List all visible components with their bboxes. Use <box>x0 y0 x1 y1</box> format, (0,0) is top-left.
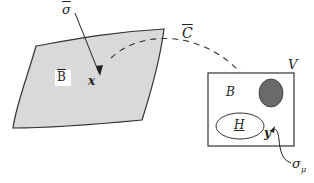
diagram-graphics <box>0 0 314 183</box>
b-bar-label: B <box>57 71 66 83</box>
dark-ellipse <box>259 79 283 107</box>
v-label: V <box>288 58 297 71</box>
sigma-mu-label: σμ <box>292 157 306 174</box>
sigma-bar-label: σ <box>62 3 71 16</box>
x-label: x <box>88 75 95 87</box>
sigma-mu-subscript: μ <box>301 165 306 174</box>
y-label: y <box>264 127 271 139</box>
h-label: H <box>234 119 244 131</box>
diagram-canvas: σ B x C V B H y σμ <box>0 0 314 183</box>
c-bar-label: C <box>182 26 193 40</box>
sigma-mu-base: σ <box>292 156 301 171</box>
b-inner-label: B <box>226 86 235 98</box>
